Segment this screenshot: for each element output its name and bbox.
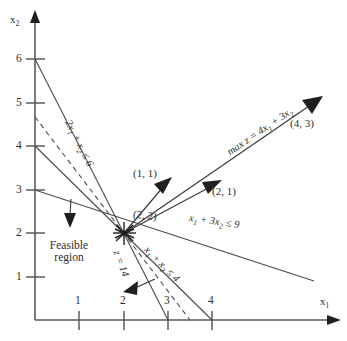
y-axis-label: x2 — [10, 14, 19, 28]
isoline-direction-arrowhead — [123, 281, 138, 295]
axes-group — [30, 10, 341, 325]
x-axis-label: x1 — [320, 296, 329, 310]
constraint-line-2x1-x2-6 — [35, 59, 168, 320]
x-tick-label-3: 3 — [164, 294, 170, 306]
y-tick-label-1: 1 — [16, 270, 22, 282]
x-tick-label-4: 4 — [208, 294, 214, 306]
constraint-line-x1-3x2-9 — [35, 190, 314, 281]
objective-isoline-z14 — [35, 117, 190, 320]
constraint-normal-arrowhead — [64, 213, 76, 228]
gradient-label-21: (2, 1) — [212, 186, 236, 198]
vertex-point-label: (2, 2) — [132, 209, 157, 223]
y-axis-arrowhead — [30, 10, 40, 23]
vector-11-arrowhead — [154, 177, 172, 194]
plot-canvas — [0, 0, 347, 341]
vector-43-arrowhead — [302, 96, 323, 114]
gradient-label-43: (4, 3) — [290, 118, 314, 130]
isoline-direction-arrow — [123, 279, 155, 295]
y-tick-label-5: 5 — [16, 96, 22, 108]
x-tick-label-2: 2 — [120, 294, 126, 306]
feasible-region-label: Feasible region — [38, 239, 100, 263]
lp-graph-figure: x2 x1 6 5 4 3 2 1 1 2 3 4 Feasible regio… — [0, 0, 347, 341]
gradient-label-11: (1, 1) — [133, 168, 157, 180]
y-tick-label-3: 3 — [16, 183, 22, 195]
x-axis-arrowhead — [327, 315, 341, 325]
y-tick-label-2: 2 — [16, 226, 22, 238]
y-tick-label-6: 6 — [16, 52, 22, 64]
x-tick-label-1: 1 — [75, 294, 81, 306]
y-tick-label-4: 4 — [16, 139, 22, 151]
